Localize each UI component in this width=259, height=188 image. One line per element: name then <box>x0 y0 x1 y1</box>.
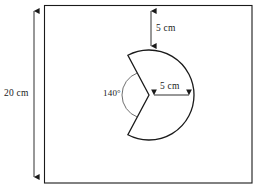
sector-angle-label: 140° <box>103 89 121 98</box>
radius-dimension-label: 5 cm <box>160 82 180 92</box>
figure-canvas <box>0 0 259 188</box>
geometry-figure: 20 cm 5 cm 5 cm 140° <box>0 0 259 188</box>
height-dimension-label: 20 cm <box>4 89 28 99</box>
top-gap-dimension-label: 5 cm <box>156 24 176 34</box>
